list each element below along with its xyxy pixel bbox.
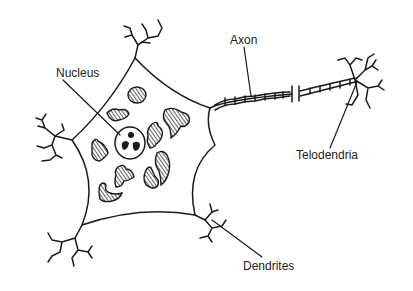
- dendrites-top: [124, 20, 162, 58]
- dendrites-bottom-left: [48, 225, 92, 266]
- nucleolus: [122, 132, 140, 151]
- nissl-bodies: [92, 87, 189, 202]
- label-nucleus: Nucleus: [56, 66, 99, 80]
- dendrites-left: [36, 114, 72, 161]
- label-telodendria: Telodendria: [296, 148, 358, 162]
- axon: [210, 78, 355, 110]
- label-dendrites: Dendrites: [243, 259, 294, 273]
- nucleus: [115, 127, 145, 159]
- neuron-diagram: [0, 0, 413, 291]
- label-axon: Axon: [230, 33, 257, 47]
- dendrites-bottom-right: [195, 204, 226, 242]
